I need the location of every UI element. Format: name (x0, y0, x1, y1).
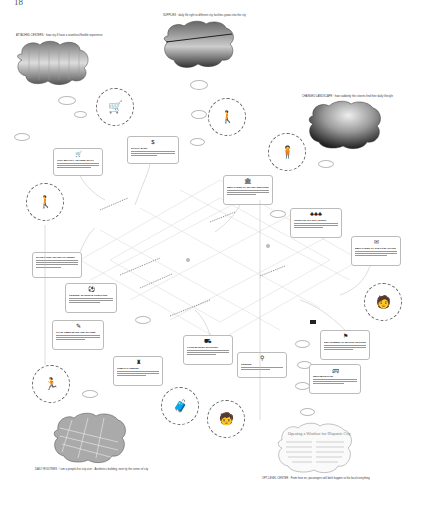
connector-lines (0, 0, 425, 506)
